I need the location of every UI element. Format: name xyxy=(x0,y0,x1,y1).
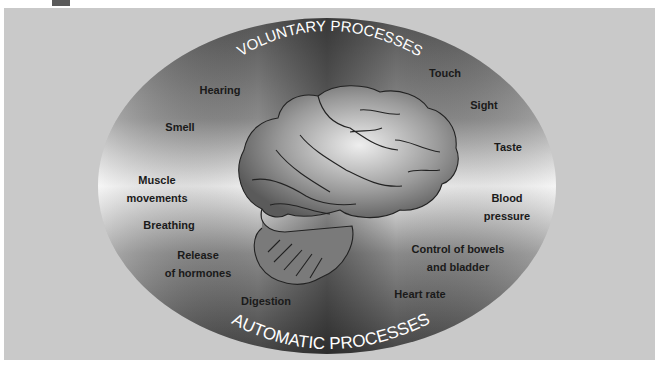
label-breathing: Breathing xyxy=(143,216,194,234)
label-line: Blood xyxy=(484,189,530,207)
label-touch: Touch xyxy=(429,64,461,82)
label-smell: Smell xyxy=(165,118,194,136)
label-line: movements xyxy=(126,189,187,207)
label-digestion: Digestion xyxy=(241,292,291,310)
label-control-of-bowels: Control of bowels and bladder xyxy=(412,240,505,276)
label-hearing: Hearing xyxy=(200,81,241,99)
label-blood-pressure: Blood pressure xyxy=(484,189,530,225)
label-line: pressure xyxy=(484,207,530,225)
label-heart-rate: Heart rate xyxy=(394,285,445,303)
label-release-of-hormones: Release of hormones xyxy=(165,246,232,282)
label-muscle-movements: Muscle movements xyxy=(126,171,187,207)
label-line: Control of bowels xyxy=(412,240,505,258)
label-line: of hormones xyxy=(165,264,232,282)
label-taste: Taste xyxy=(494,138,522,156)
processes-diagram: VOLUNTARY PROCESSES AUTOMATIC PROCESSES xyxy=(0,0,662,377)
label-line: and bladder xyxy=(412,258,505,276)
label-line: Release xyxy=(165,246,232,264)
label-line: Muscle xyxy=(126,171,187,189)
label-sight: Sight xyxy=(470,96,498,114)
